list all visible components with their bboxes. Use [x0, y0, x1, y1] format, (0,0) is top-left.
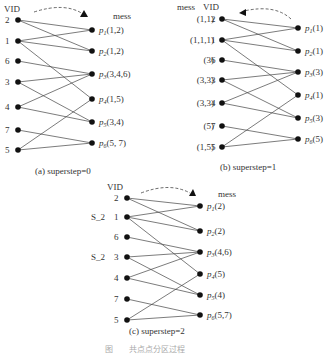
mess-header: mess: [113, 11, 131, 21]
partition-label: p1(2): [206, 201, 225, 212]
partition-node: [197, 203, 203, 209]
vid-label: 6: [114, 232, 119, 242]
vertex-node: [15, 79, 21, 85]
partition-label: p2(1,2): [98, 46, 124, 57]
partition-node: [89, 27, 95, 33]
mess-header: mess: [177, 2, 195, 12]
vid-label: 5: [5, 145, 10, 155]
partition-node: [295, 115, 301, 121]
vid-label: 3: [5, 77, 10, 87]
partition-node: [197, 228, 203, 234]
vertex-node: [124, 254, 130, 260]
vid-header: VID: [203, 2, 219, 12]
vertex-node: [124, 214, 130, 220]
vertex-node: [15, 127, 21, 133]
partition-label: p5(3): [304, 113, 323, 124]
partition-node: [89, 48, 95, 54]
vertex-node: [15, 147, 21, 153]
partition-node: [197, 249, 203, 255]
vid-label: 3: [114, 252, 119, 262]
panel-caption: (b) superstep=1: [220, 162, 276, 172]
vid-label: 7: [114, 294, 119, 304]
panel-caption: (a) superstep=0: [35, 166, 91, 176]
partition-label: p1(1,2): [98, 25, 124, 36]
partition-label: p5(4): [206, 290, 225, 301]
partition-label: p4(5): [206, 269, 225, 280]
partition-label: p2(2): [206, 226, 225, 237]
partition-label: p3(4,6): [206, 247, 232, 258]
vid-label: 1: [114, 212, 119, 222]
partition-node: [197, 292, 203, 298]
dashed-arrow-icon: [244, 9, 291, 19]
vertex-node: [124, 296, 130, 302]
server-tag: S_2: [91, 212, 105, 222]
edges-a: [18, 20, 92, 150]
vid-header: VID: [107, 182, 123, 192]
panel-c: VID mess S_2 S_2 2 1 6 3 4 7: [91, 182, 237, 336]
panel-b: mess VID (1,1) (1,1,1) (3) (3,3) (3,3) (…: [177, 2, 323, 172]
partition-node: [89, 140, 95, 146]
vid-label: 1: [5, 36, 10, 46]
vid-label: 7: [211, 121, 216, 131]
vid-label: 4: [5, 102, 10, 112]
partition-node: [295, 25, 301, 31]
vid-label: 2: [211, 14, 216, 24]
partition-label: p1(1): [304, 23, 323, 34]
partition-label: p4(1): [304, 90, 323, 101]
vid-header: VID: [4, 4, 20, 14]
vertex-node: [124, 275, 130, 281]
vertex-node: [219, 100, 225, 106]
vertex-node: [15, 17, 21, 23]
vertex-node: [15, 38, 21, 44]
vid-label: 1: [211, 35, 216, 45]
vid-label: 4: [211, 98, 216, 108]
vid-label: 4: [114, 273, 119, 283]
partition-label: p6(5, 7): [98, 138, 126, 149]
partition-node: [295, 92, 301, 98]
arrow-head-icon: [239, 9, 246, 16]
left-nodes-a: 2 1 6 3 4 7 5: [5, 15, 21, 155]
vertex-node: [219, 123, 225, 129]
partition-label: p6(5): [304, 134, 323, 145]
vertex-node: [219, 77, 225, 83]
right-nodes-a: p1(1,2) p2(1,2) p3(3,4,6) p4(1,5) p5(3,4…: [89, 25, 130, 149]
edges-c: [127, 198, 200, 320]
partition-node: [89, 71, 95, 77]
panel-a: VID mess 2 1 6 3 4 7 5: [4, 4, 131, 176]
edges-b: [222, 19, 298, 147]
vertex-node: [219, 37, 225, 43]
server-tag: S_2: [91, 252, 105, 262]
left-nodes-b: (1,1) (1,1,1) (3) (3,3) (3,3) (5) (1,5) …: [190, 14, 225, 152]
arrow-head-icon: [189, 189, 196, 196]
vertex-node: [219, 16, 225, 22]
vid-label: 2: [114, 193, 119, 203]
partition-node: [89, 119, 95, 125]
partition-label: p2(1): [304, 46, 323, 57]
vid-label: 5: [114, 315, 119, 325]
vertex-node: [124, 234, 130, 240]
partition-node: [295, 69, 301, 75]
right-nodes-b: p1(1) p2(1) p3(3) p4(1) p5(3) p6(5): [295, 23, 323, 145]
vertex-node: [124, 317, 130, 323]
vid-label: 2: [5, 15, 10, 25]
figure-caption: 图 共点点分区过程: [105, 344, 185, 354]
vertex-node: [124, 195, 130, 201]
vertex-node: [15, 58, 21, 64]
vertex-node: [219, 144, 225, 150]
left-nodes-c: S_2 S_2 2 1 6 3 4 7 5: [91, 193, 130, 325]
vid-label: 5: [211, 142, 216, 152]
dashed-arrow-icon: [141, 188, 190, 194]
partition-label: p3(3): [304, 67, 323, 78]
partition-node: [89, 96, 95, 102]
vid-label: 6: [5, 56, 10, 66]
partition-label: p6(5,7): [206, 310, 232, 321]
arrow-head-icon: [80, 10, 88, 17]
partition-label: p5(3,4): [98, 117, 124, 128]
graph-partition-figure: VID mess 2 1 6 3 4 7 5: [0, 0, 327, 354]
partition-label: p4(1,5): [98, 94, 124, 105]
vid-label: 7: [5, 125, 10, 135]
vertex-node: [219, 57, 225, 63]
vid-label: 6: [211, 55, 216, 65]
partition-node: [197, 312, 203, 318]
panel-caption: (c) superstep=2: [129, 326, 185, 336]
